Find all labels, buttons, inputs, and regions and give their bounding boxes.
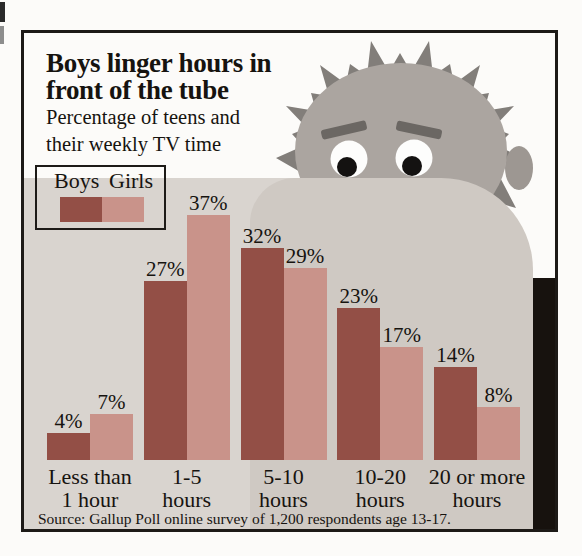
infographic: Boys linger hours in front of the tube P… <box>0 0 582 556</box>
frame-border <box>21 30 558 532</box>
